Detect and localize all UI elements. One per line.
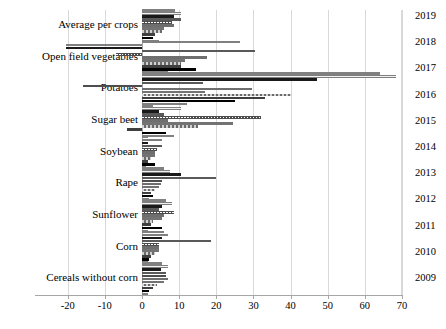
bar-2016-open-field-vegetables — [142, 50, 255, 53]
legend-item-2014[interactable]: 2014 — [406, 141, 446, 167]
bar-2016-potatoes — [142, 82, 203, 85]
legend-label-2019: 2019 — [415, 10, 436, 21]
category-label-sunflower: Sunflower — [0, 208, 138, 220]
legend-label-2014: 2014 — [415, 141, 436, 152]
legend-item-2013[interactable]: 2013 — [406, 167, 446, 193]
category-label-sugar-beet: Sugar beet — [0, 113, 138, 125]
legend-label-2015: 2015 — [415, 115, 436, 126]
gridline-70 — [402, 10, 403, 295]
legend-label-2012: 2012 — [415, 193, 436, 204]
x-tick-label-60: 60 — [345, 300, 385, 311]
legend-item-2010[interactable]: 2010 — [406, 246, 446, 272]
legend-item-2015[interactable]: 2015 — [406, 115, 446, 141]
legend-label-2011: 2011 — [415, 220, 436, 231]
bar-2012-sugar-beet — [142, 125, 198, 128]
gridline-10 — [179, 10, 180, 295]
x-tick-label-30: 30 — [233, 300, 273, 311]
legend-swatch-icon-2010 — [406, 252, 413, 259]
legend-item-2018[interactable]: 2018 — [406, 36, 446, 62]
tick-20 — [216, 295, 217, 299]
plot-frame — [142, 10, 402, 295]
legend-swatch-icon-2015 — [406, 121, 413, 128]
x-axis-line — [35, 295, 402, 296]
tick-0 — [142, 295, 143, 299]
bar-2015-open-field-vegetables — [116, 53, 142, 56]
legend-item-2016[interactable]: 2016 — [406, 89, 446, 115]
legend-swatch-icon-2018 — [406, 42, 413, 49]
gridline-50 — [328, 10, 329, 295]
gridline-40 — [291, 10, 292, 295]
legend-item-2012[interactable]: 2012 — [406, 193, 446, 219]
x-tick-label-20: 20 — [196, 300, 236, 311]
bar-2019-open-field-vegetables — [142, 41, 240, 44]
x-tick-label-0: 0 — [122, 300, 162, 311]
legend-swatch-icon-2012 — [406, 199, 413, 206]
legend-swatch-icon-2009 — [406, 278, 413, 285]
legend-label-2017: 2017 — [415, 62, 436, 73]
gridline-30 — [253, 10, 254, 295]
legend-label-2018: 2018 — [415, 36, 436, 47]
legend-item-2011[interactable]: 2011 — [406, 220, 446, 246]
category-label-average-per-crops: Average per crops — [0, 18, 138, 30]
category-label-corn: Corn — [0, 240, 138, 252]
chart-container: -20-10010203040506070 Average per cropsO… — [0, 0, 446, 329]
tick--20 — [68, 295, 69, 299]
bar-2015-potatoes — [83, 85, 142, 88]
legend-swatch-icon-2011 — [406, 226, 413, 233]
tick-40 — [291, 295, 292, 299]
chart-legend: 2019201820172016201520142013201220112010… — [406, 10, 446, 298]
tick-30 — [253, 295, 254, 299]
legend-swatch-icon-2016 — [406, 95, 413, 102]
tick-10 — [179, 295, 180, 299]
category-label-cereals-without-corn: Cereals without corn — [0, 271, 138, 283]
category-label-soybean: Soybean — [0, 145, 138, 157]
x-tick-label-40: 40 — [271, 300, 311, 311]
legend-item-2017[interactable]: 2017 — [406, 62, 446, 88]
legend-swatch-icon-2013 — [406, 173, 413, 180]
category-label-rape: Rape — [0, 176, 138, 188]
x-tick-label-50: 50 — [308, 300, 348, 311]
legend-swatch-icon-2014 — [406, 147, 413, 154]
x-tick-label--10: -10 — [85, 300, 125, 311]
legend-item-2019[interactable]: 2019 — [406, 10, 446, 36]
legend-label-2016: 2016 — [415, 89, 436, 100]
x-tick-label--20: -20 — [48, 300, 88, 311]
tick-60 — [365, 295, 366, 299]
legend-swatch-icon-2017 — [406, 68, 413, 75]
legend-item-2009[interactable]: 2009 — [406, 272, 446, 298]
bar-2009-cereals-without-corn — [142, 293, 148, 296]
gridline-20 — [216, 10, 217, 295]
x-tick-label-70: 70 — [382, 300, 422, 311]
bar-2011-sugar-beet — [127, 128, 142, 131]
legend-swatch-icon-2019 — [406, 16, 413, 23]
tick-70 — [402, 295, 403, 299]
bar-2017-open-field-vegetables — [66, 47, 142, 50]
tick-50 — [328, 295, 329, 299]
x-tick-label-10: 10 — [159, 300, 199, 311]
legend-label-2009: 2009 — [415, 272, 436, 283]
tick--10 — [105, 295, 106, 299]
gridline-60 — [365, 10, 366, 295]
legend-label-2010: 2010 — [415, 246, 436, 257]
legend-label-2013: 2013 — [415, 167, 436, 178]
